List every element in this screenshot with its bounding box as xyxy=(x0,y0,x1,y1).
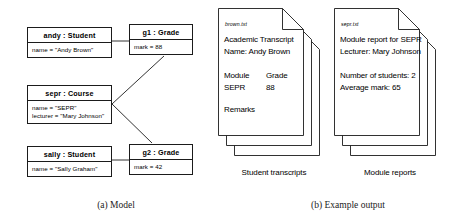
stack-caption-student-transcripts: Student transcripts xyxy=(218,168,330,177)
object-node-sally[interactable]: sally : Student name = "Sally Graham" xyxy=(27,146,112,177)
figure-caption-a: (a) Model xyxy=(0,200,232,210)
object-node-g1[interactable]: g1 : Grade mark = 88 xyxy=(129,24,193,55)
attribute-row: mark = 42 xyxy=(134,163,188,171)
document-line-title: Academic Transcript xyxy=(224,36,294,44)
stack-caption-module-reports: Module reports xyxy=(334,168,446,177)
attribute-row: name = "Sally Graham" xyxy=(32,165,107,173)
document-line-grade-header: Grade xyxy=(266,72,288,80)
document-line-grade-value: 88 xyxy=(266,84,275,92)
document-line-average-mark: Average mark: 65 xyxy=(340,84,401,92)
document-stack-student-transcripts[interactable]: brown.txt Academic Transcript Name: Andy… xyxy=(218,8,330,173)
document-line-lecturer: Lecturer: Mary Johnson xyxy=(340,48,421,56)
document-line-module-header: Module xyxy=(224,72,249,80)
attribute-row: name = "SEPR" xyxy=(32,104,107,112)
object-title-g1: g1 : Grade xyxy=(130,25,192,40)
object-attributes-sepr: name = "SEPR" lecturer = "Mary Johnson" xyxy=(28,101,111,123)
document-line-name: Name: Andy Brown xyxy=(224,48,290,56)
object-title-sally: sally : Student xyxy=(28,147,111,162)
object-attributes-andy: name = "Andy Brown" xyxy=(28,43,111,57)
model-panel: andy : Student name = "Andy Brown" g1 : … xyxy=(0,0,232,196)
object-attributes-g1: mark = 88 xyxy=(130,40,192,54)
object-title-g2: g2 : Grade xyxy=(130,145,192,160)
document-stack-module-reports[interactable]: sepr.txt Module report for SEPR Lecturer… xyxy=(334,8,446,173)
object-title-sepr: sepr : Course xyxy=(28,86,111,101)
object-attributes-g2: mark = 42 xyxy=(130,160,192,174)
object-attributes-sally: name = "Sally Graham" xyxy=(28,162,111,176)
figure-root: andy : Student name = "Andy Brown" g1 : … xyxy=(0,0,464,224)
link-sepr-g1 xyxy=(112,56,164,104)
figure-caption-b: (b) Example output xyxy=(232,200,464,210)
attribute-row: mark = 88 xyxy=(134,43,188,51)
document-line-title: Module report for SEPR xyxy=(340,36,422,44)
document-filename: sepr.txt xyxy=(341,21,359,27)
example-output-panel: brown.txt Academic Transcript Name: Andy… xyxy=(232,0,464,196)
document-line-module-value: SEPR xyxy=(224,84,245,92)
object-node-sepr[interactable]: sepr : Course name = "SEPR" lecturer = "… xyxy=(27,85,112,124)
document-line-remarks: Remarks xyxy=(224,106,255,114)
document-content-brown: brown.txt Academic Transcript Name: Andy… xyxy=(218,8,304,136)
link-sepr-g2 xyxy=(112,104,152,143)
attribute-row: name = "Andy Brown" xyxy=(32,46,107,54)
object-node-andy[interactable]: andy : Student name = "Andy Brown" xyxy=(27,27,112,58)
document-filename: brown.txt xyxy=(225,21,247,27)
document-line-student-count: Number of students: 2 xyxy=(340,72,416,80)
object-title-andy: andy : Student xyxy=(28,28,111,43)
attribute-row: lecturer = "Mary Johnson" xyxy=(32,112,107,120)
object-node-g2[interactable]: g2 : Grade mark = 42 xyxy=(129,144,193,175)
document-content-sepr: sepr.txt Module report for SEPR Lecturer… xyxy=(334,8,420,136)
